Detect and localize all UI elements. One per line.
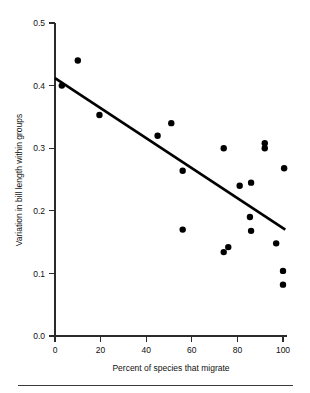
regression-line [55,78,285,229]
x-axis-label: Percent of species that migrate [112,363,229,373]
data-point [179,226,185,232]
x-axis-ticks: 020406080100 [53,336,291,355]
data-point [280,268,286,274]
x-tick-label: 80 [233,345,243,355]
y-tick-label: 0.4 [33,81,45,91]
data-point [262,145,268,151]
y-tick-label: 0.3 [33,143,45,153]
data-points [59,57,288,288]
data-point [221,249,227,255]
data-point [280,281,286,287]
x-tick-label: 100 [276,345,290,355]
figure-container: 0.00.10.20.30.40.5 020406080100 Percent … [0,0,310,393]
data-point [225,244,231,250]
data-point [168,120,174,126]
y-tick-label: 0.0 [33,331,45,341]
y-axis-label: Variation in bill length within groups [14,114,24,247]
data-point [179,168,185,174]
data-point [247,214,253,220]
x-tick-label: 60 [187,345,197,355]
data-point [248,228,254,234]
data-point [154,132,160,138]
data-point [221,145,227,151]
scatter-plot: 0.00.10.20.30.40.5 020406080100 Percent … [0,0,310,393]
x-tick-label: 0 [53,345,58,355]
regression-line-segment [55,78,285,229]
x-tick-label: 40 [141,345,151,355]
data-point [281,165,287,171]
y-tick-label: 0.5 [33,18,45,28]
data-point [96,112,102,118]
data-point [248,179,254,185]
data-point [59,82,65,88]
x-tick-label: 20 [96,345,106,355]
data-point [236,183,242,189]
y-tick-label: 0.1 [33,269,45,279]
y-axis-ticks: 0.00.10.20.30.40.5 [33,18,55,341]
data-point [273,240,279,246]
y-tick-label: 0.2 [33,206,45,216]
data-point [75,57,81,63]
